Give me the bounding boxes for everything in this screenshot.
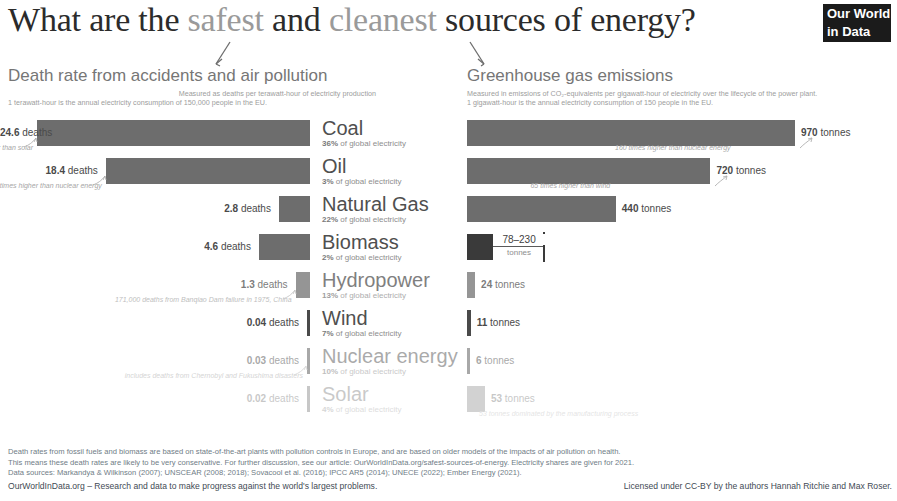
energy-source-label: Solar <box>322 383 369 405</box>
energy-source-label: Biomass <box>322 231 399 253</box>
logo-line-2: in Data <box>827 23 887 41</box>
death-rate-value: 0.03 deaths <box>0 355 299 366</box>
emissions-unit: tonnes <box>638 203 671 214</box>
our-world-in-data-logo[interactable]: Our World in Data <box>823 4 891 42</box>
death-rate-number: 2.8 <box>224 203 238 214</box>
emissions-number: 440 <box>622 203 639 214</box>
emissions-annotation: 53 tonnes dominated by the manufacturing… <box>479 410 638 417</box>
energy-source-label: Oil <box>322 155 346 177</box>
death-rate-bar[interactable] <box>296 272 310 298</box>
electricity-share-value: 22% <box>322 215 338 224</box>
emissions-unit: tonnes <box>482 355 515 366</box>
emissions-bar[interactable] <box>467 234 493 260</box>
range-line <box>493 246 544 247</box>
death-rate-number: 0.03 <box>247 355 266 366</box>
energy-source-label: Wind <box>322 307 368 329</box>
electricity-share-suffix: of global electricity <box>334 253 402 262</box>
emissions-bar[interactable] <box>467 196 616 222</box>
electricity-share-label: 13% of global electricity <box>322 291 406 300</box>
emissions-unit: tonnes <box>492 279 525 290</box>
electricity-share-value: 4% <box>322 405 334 414</box>
electricity-share-suffix: of global electricity <box>334 405 402 414</box>
death-rate-value: 0.02 deaths <box>0 393 299 404</box>
emissions-bar[interactable] <box>467 386 485 412</box>
death-rate-value: 18.4 deaths <box>0 165 98 176</box>
electricity-share-suffix: of global electricity <box>338 367 406 376</box>
emissions-range-bracket: 78–230tonnes <box>493 234 544 260</box>
electricity-share-value: 13% <box>322 291 338 300</box>
energy-source-label: Natural Gas <box>322 193 429 215</box>
footer-note-line-2: This means these death rates are likely … <box>8 458 892 469</box>
death-annotation-arrow-icon <box>282 289 298 303</box>
death-annotation-arrow-icon <box>293 365 309 379</box>
electricity-share-label: 3% of global electricity <box>322 177 402 186</box>
death-rate-bar[interactable] <box>279 196 310 222</box>
energy-source-label: Nuclear energy <box>322 345 458 367</box>
emissions-unit: tonnes <box>502 393 535 404</box>
emissions-value: 24 tonnes <box>481 279 525 290</box>
right-panel-subtitle-1: Measured in emissions of CO₂-equivalents… <box>467 89 897 98</box>
death-rate-number: 1.3 <box>241 279 255 290</box>
emissions-range-unit: tonnes <box>493 248 544 257</box>
emissions-bar[interactable] <box>467 158 710 184</box>
death-rate-value: 1.3 deaths <box>0 279 288 290</box>
energy-source-label: Coal <box>322 117 363 139</box>
electricity-share-label: 2% of global electricity <box>322 253 402 262</box>
footer-note-line-1: Death rates from fossil fuels and biomas… <box>8 447 892 458</box>
emissions-range-value: 78–230 <box>493 234 544 245</box>
death-rate-bar[interactable] <box>106 158 310 184</box>
logo-line-1: Our World <box>827 5 887 23</box>
emissions-annotation: 65 times higher than wind <box>530 182 610 189</box>
left-panel-header: Death rate from accidents and air pollut… <box>8 66 448 107</box>
death-rate-annotation: 612 times higher than nuclear energy <box>0 182 102 189</box>
death-rate-bar[interactable] <box>307 310 310 336</box>
death-rate-number: 24.6 <box>0 127 19 138</box>
emissions-annotation: 160 times higher than nuclear energy <box>615 144 731 151</box>
footer-site-credit[interactable]: OurWorldInData.org – Research and data t… <box>8 480 377 493</box>
emissions-bar[interactable] <box>467 348 470 374</box>
emissions-annotation-arrow-icon <box>797 137 813 151</box>
electricity-share-suffix: of global electricity <box>338 139 406 148</box>
electricity-share-suffix: of global electricity <box>334 329 402 338</box>
chart-area: 24.6 deaths1230 times higher than solarC… <box>0 110 897 420</box>
death-rate-value: 2.8 deaths <box>0 203 271 214</box>
emissions-value: 11 tonnes <box>477 317 520 328</box>
death-rate-number: 4.6 <box>204 241 218 252</box>
emissions-unit: tonnes <box>818 127 851 138</box>
death-rate-number: 18.4 <box>46 165 65 176</box>
emissions-bar[interactable] <box>467 120 795 146</box>
electricity-share-label: 4% of global electricity <box>322 405 402 414</box>
left-panel-title: Death rate from accidents and air pollut… <box>8 66 448 86</box>
footer-sources-line: Data sources: Markandya & Wilkinson (200… <box>8 468 892 479</box>
electricity-share-label: 36% of global electricity <box>322 139 406 148</box>
death-annotation-arrow-icon <box>92 175 108 189</box>
emissions-annotation-arrow-icon <box>712 175 728 189</box>
death-rate-bar[interactable] <box>259 234 310 260</box>
emissions-unit: tonnes <box>733 165 766 176</box>
electricity-share-value: 3% <box>322 177 334 186</box>
death-rate-annotation: includes deaths from Chernobyl and Fukus… <box>125 372 303 379</box>
death-annotation-arrow-icon <box>23 137 39 151</box>
electricity-share-value: 10% <box>322 367 338 376</box>
death-rate-bar[interactable] <box>307 386 310 412</box>
emissions-number: 11 <box>477 317 488 328</box>
death-rate-unit: deaths <box>238 203 271 214</box>
death-rate-unit: deaths <box>266 317 299 328</box>
footer: Death rates from fossil fuels and biomas… <box>8 447 892 479</box>
emissions-unit: tonnes <box>487 317 520 328</box>
right-panel-header: Greenhouse gas emissions Measured in emi… <box>467 66 897 107</box>
left-panel-subtitle-1: Measured as deaths per terawatt-hour of … <box>8 89 448 98</box>
emissions-bar[interactable] <box>467 310 471 336</box>
electricity-share-suffix: of global electricity <box>338 291 406 300</box>
emissions-bar[interactable] <box>467 272 475 298</box>
death-rate-value: 4.6 deaths <box>0 241 251 252</box>
energy-source-label: Hydropower <box>322 269 430 291</box>
death-rate-annotation: 171,000 deaths from Banqiao Dam failure … <box>115 296 292 303</box>
electricity-share-label: 10% of global electricity <box>322 367 406 376</box>
arrow-to-left-panel-icon <box>200 40 240 68</box>
death-rate-number: 0.04 <box>247 317 266 328</box>
electricity-share-value: 36% <box>322 139 338 148</box>
emissions-value: 440 tonnes <box>622 203 672 214</box>
title-highlight-safest: safest <box>188 1 264 38</box>
death-rate-bar[interactable] <box>37 120 310 146</box>
